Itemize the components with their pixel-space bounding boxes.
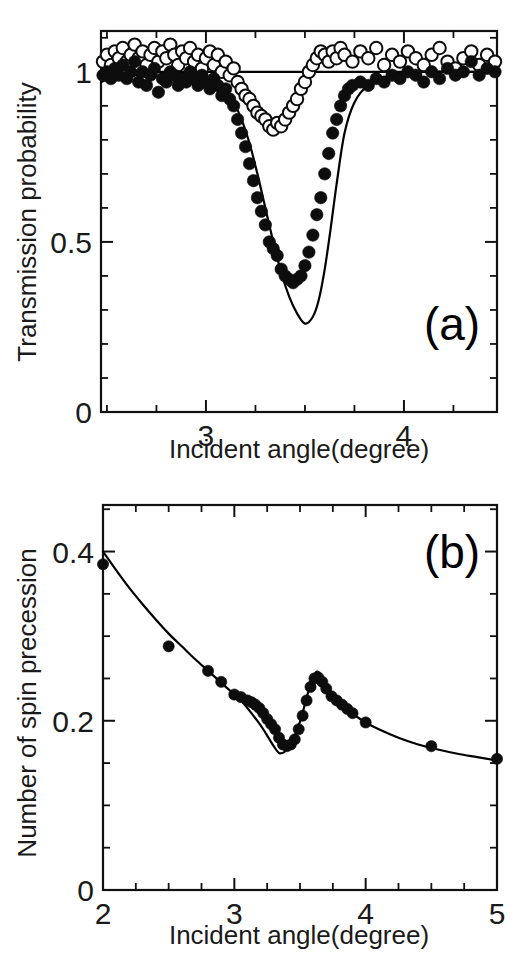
panel-a-text-layer: Incident angle(degree) Transmission prob… xyxy=(0,0,526,488)
panel-b-text-layer: Incident angle(degree) Number of spin pr… xyxy=(0,488,526,976)
panel-b-tag: (b) xyxy=(424,526,480,578)
figure-container: 3400.51 Incident angle(degree) Transmiss… xyxy=(0,0,526,976)
panel-b: 234500.20.4 Incident angle(degree) Numbe… xyxy=(0,488,526,976)
panel-a-y-axis-title: Transmission probability xyxy=(12,82,42,361)
panel-a: 3400.51 Incident angle(degree) Transmiss… xyxy=(0,0,526,488)
panel-a-tag: (a) xyxy=(424,298,480,350)
panel-b-x-axis-title: Incident angle(degree) xyxy=(169,920,429,950)
panel-a-x-axis-title: Incident angle(degree) xyxy=(169,434,429,464)
panel-b-y-axis-title: Number of spin precession xyxy=(12,548,42,857)
